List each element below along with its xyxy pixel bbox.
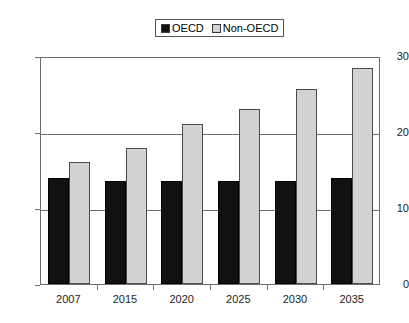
x-tick-label: 2035	[324, 293, 380, 305]
bar-oecd-2025	[218, 181, 239, 284]
x-tick-mark	[267, 285, 268, 290]
bar-group	[98, 58, 155, 284]
y-tick-label: 10	[381, 203, 409, 214]
bar-oecd-2020	[161, 181, 182, 284]
bar-group	[41, 58, 98, 284]
bar-group	[154, 58, 211, 284]
plot-area	[40, 57, 380, 285]
y-tick-label: 0	[381, 279, 409, 290]
x-tick-mark	[153, 285, 154, 290]
x-tick-mark	[210, 285, 211, 290]
y-tick-label: 20	[381, 127, 409, 138]
x-tick-mark	[323, 285, 324, 290]
x-tick-label: 2030	[267, 293, 323, 305]
legend-label-oecd: OECD	[172, 23, 204, 34]
y-tick-label: 30	[381, 51, 409, 62]
bar-group	[211, 58, 268, 284]
x-tick-mark	[97, 285, 98, 290]
bar-oecd-2035	[331, 178, 352, 284]
chart-legend: OECD Non-OECD	[155, 19, 284, 37]
bar-oecd-2007	[48, 178, 69, 284]
x-tick-label: 2020	[154, 293, 210, 305]
x-tick-label: 2015	[97, 293, 153, 305]
bar-chart: OECD Non-OECD 0102030 200720152020202520…	[0, 0, 409, 323]
bar-oecd-2030	[275, 181, 296, 284]
bar-non-oecd-2015	[126, 148, 147, 284]
bar-non-oecd-2035	[352, 68, 373, 284]
bar-non-oecd-2030	[296, 89, 317, 284]
bar-oecd-2015	[105, 181, 126, 284]
legend-swatch-oecd	[161, 24, 170, 33]
y-tick-mark	[35, 285, 40, 286]
legend-label-non-oecd: Non-OECD	[223, 23, 279, 34]
legend-swatch-non-oecd	[212, 24, 221, 33]
bar-group	[324, 58, 381, 284]
bar-group	[268, 58, 325, 284]
bar-non-oecd-2020	[182, 124, 203, 284]
bar-non-oecd-2025	[239, 109, 260, 284]
legend-entry-non-oecd: Non-OECD	[212, 23, 279, 34]
legend-entry-oecd: OECD	[161, 23, 204, 34]
bar-non-oecd-2007	[69, 162, 90, 284]
x-tick-label: 2025	[210, 293, 266, 305]
x-tick-label: 2007	[40, 293, 96, 305]
